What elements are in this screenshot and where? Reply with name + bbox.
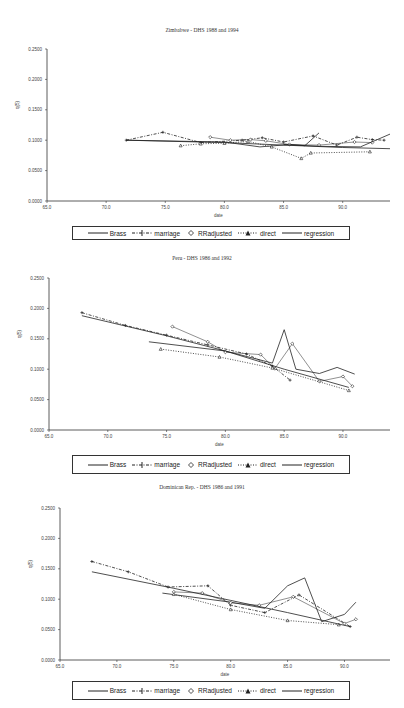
- svg-text:0.0500: 0.0500: [41, 627, 55, 632]
- svg-text:q(5): q(5): [28, 560, 33, 569]
- svg-text:0.1000: 0.1000: [41, 597, 55, 602]
- legend-label: Brass: [110, 687, 127, 694]
- svg-text:date: date: [214, 213, 223, 218]
- chart-peru: 0.00000.05000.10000.15000.20000.250065.0…: [0, 229, 404, 474]
- legend-marriage: marriage: [132, 687, 180, 694]
- svg-text:90.0: 90.0: [339, 434, 348, 439]
- svg-text:0.2000: 0.2000: [41, 536, 55, 541]
- svg-text:70.0: 70.0: [102, 205, 111, 210]
- svg-text:q(5): q(5): [15, 101, 20, 110]
- svg-text:80.0: 80.0: [220, 205, 229, 210]
- svg-text:date: date: [221, 672, 230, 677]
- svg-text:0.2500: 0.2500: [30, 276, 44, 281]
- legend-label: regression: [304, 687, 334, 694]
- dotted-triangle-icon: [238, 688, 258, 694]
- svg-text:90.0: 90.0: [338, 205, 347, 210]
- solid-line-icon: [282, 688, 302, 694]
- svg-text:0.0000: 0.0000: [41, 658, 55, 663]
- diamond-marker-icon: [186, 688, 196, 694]
- svg-text:80.0: 80.0: [226, 664, 235, 669]
- svg-text:0.0500: 0.0500: [28, 168, 42, 173]
- svg-text:0.1000: 0.1000: [28, 138, 42, 143]
- svg-text:85.0: 85.0: [280, 434, 289, 439]
- svg-text:0.1500: 0.1500: [41, 566, 55, 571]
- svg-text:90.0: 90.0: [340, 664, 349, 669]
- svg-text:0.1500: 0.1500: [28, 107, 42, 112]
- svg-text:65.0: 65.0: [56, 664, 65, 669]
- legend-label: marriage: [154, 687, 180, 694]
- legend-dominican-rep: Brass marriage RRadjusted direct regress…: [72, 681, 350, 700]
- svg-text:75.0: 75.0: [169, 664, 178, 669]
- legend-direct: direct: [238, 687, 276, 694]
- svg-text:0.2000: 0.2000: [28, 77, 42, 82]
- svg-text:0.2500: 0.2500: [41, 506, 55, 511]
- solid-line-icon: [88, 688, 108, 694]
- svg-text:80.0: 80.0: [221, 434, 230, 439]
- svg-text:date: date: [215, 442, 224, 447]
- legend-rradjusted: RRadjusted: [186, 687, 232, 694]
- svg-text:0.2500: 0.2500: [28, 47, 42, 52]
- svg-text:70.0: 70.0: [113, 664, 122, 669]
- legend-label: direct: [260, 687, 276, 694]
- legend-regression: regression: [282, 687, 334, 694]
- svg-text:65.0: 65.0: [45, 434, 54, 439]
- svg-text:75.0: 75.0: [162, 434, 171, 439]
- svg-text:85.0: 85.0: [279, 205, 288, 210]
- svg-text:0.1000: 0.1000: [30, 367, 44, 372]
- svg-text:0.0000: 0.0000: [30, 428, 44, 433]
- svg-text:0.2000: 0.2000: [30, 306, 44, 311]
- svg-text:70.0: 70.0: [103, 434, 112, 439]
- legend-brass: Brass: [88, 687, 127, 694]
- dash-plus-icon: [132, 688, 152, 694]
- svg-text:0.0500: 0.0500: [30, 397, 44, 402]
- svg-text:0.0000: 0.0000: [28, 199, 42, 204]
- svg-text:75.0: 75.0: [161, 205, 170, 210]
- legend-label: RRadjusted: [198, 687, 232, 694]
- chart-dominican-rep: 0.00000.05000.10000.15000.20000.250065.0…: [0, 459, 404, 704]
- svg-text:65.0: 65.0: [43, 205, 52, 210]
- svg-text:q(5): q(5): [17, 330, 22, 339]
- svg-text:85.0: 85.0: [283, 664, 292, 669]
- svg-text:0.1500: 0.1500: [30, 336, 44, 341]
- chart-zimbabwe: 0.00000.05000.10000.15000.20000.250065.0…: [0, 0, 404, 245]
